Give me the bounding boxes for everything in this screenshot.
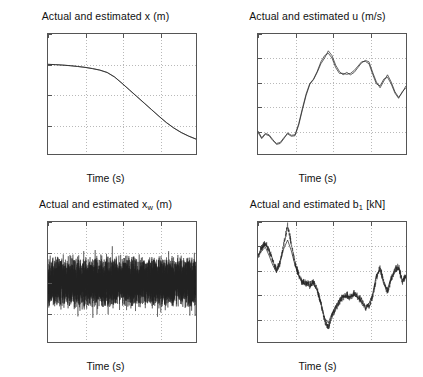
subplot-xw-noise	[48, 222, 196, 342]
xtickmark-3	[161, 34, 162, 38]
xtickmark-0	[48, 34, 49, 38]
ytickmark-4	[258, 132, 262, 133]
ytickmark-2	[258, 83, 262, 84]
ytickmark-2	[48, 283, 52, 284]
xtickmark-1	[86, 34, 87, 38]
subplot-b1-curves	[258, 222, 406, 342]
subplot-xw-xlabel: Time (s)	[0, 360, 211, 372]
ytickmark-3	[258, 107, 262, 108]
xtickmark-3	[371, 222, 372, 226]
subplot-u: Actual and estimated u (m/s) 2 1.5	[212, 0, 423, 188]
ytickmark-1	[48, 253, 52, 254]
subplot-u-title-main: Actual and estimated u	[249, 10, 358, 22]
ytickmark-1	[258, 58, 262, 59]
subplot-xw-title-main: Actual and estimated x	[39, 198, 147, 210]
xtickmark-3	[161, 222, 162, 226]
ytickmark-1	[258, 246, 262, 247]
subplot-x-title-unit: (m)	[153, 10, 169, 22]
ytickmark-2	[48, 95, 52, 96]
subplot-b1-axes: 20 0 -20 -40 -60 -80 0 1000 2000 3000 40…	[257, 221, 407, 343]
xtickmark-3	[371, 34, 372, 38]
subplot-b1-title-main: Actual and estimated b	[250, 198, 359, 210]
ytickmark-4	[258, 320, 262, 321]
subplot-x-title: Actual and estimated x (m)	[0, 10, 211, 22]
subplot-x-title-main: Actual and estimated x	[42, 10, 150, 22]
subplot-b1-xlabel: Time (s)	[212, 360, 423, 372]
subplot-u-axes: 2 1.5 1 0.5 0 -0.5 0 1000 2000 3000 4000	[257, 33, 407, 155]
subplot-b1: Actual and estimated b1 [kN] 20 0 -20	[212, 188, 423, 376]
figure-four-subplots: Actual and estimated x (m) 1000 0 -1000	[0, 0, 423, 377]
subplot-xw: Actual and estimated xw (m) 2 1 0 -1 -2	[0, 188, 211, 376]
xtickmark-0	[258, 222, 259, 226]
ytickmark-1	[48, 65, 52, 66]
ytickmark-3	[48, 314, 52, 315]
subplot-x-curves	[48, 34, 196, 154]
xtickmark-2	[123, 222, 124, 226]
subplot-xw-title: Actual and estimated xw (m)	[0, 198, 211, 214]
xtickmark-1	[296, 222, 297, 226]
subplot-xw-title-sub: w	[147, 203, 153, 212]
xtickmark-2	[123, 34, 124, 38]
subplot-u-title: Actual and estimated u (m/s)	[212, 10, 423, 22]
subplot-u-title-unit: (m/s)	[361, 10, 385, 22]
xtickmark-1	[86, 222, 87, 226]
ytickmark-3	[258, 295, 262, 296]
ytickmark-3	[48, 126, 52, 127]
subplot-b1-title-unit: [kN]	[366, 198, 385, 210]
subplot-xw-axes: 2 1 0 -1 -2 0 1000 2000 3000 4000	[47, 221, 197, 343]
subplot-u-xlabel: Time (s)	[212, 172, 423, 184]
xtickmark-0	[48, 222, 49, 226]
subplot-x-xlabel: Time (s)	[0, 172, 211, 184]
subplot-x-axes: 1000 0 -1000 -2000 -3000 0 1000 2000 300…	[47, 33, 197, 155]
xtickmark-1	[296, 34, 297, 38]
subplot-b1-title: Actual and estimated b1 [kN]	[212, 198, 423, 214]
xtickmark-2	[333, 222, 334, 226]
xtickmark-2	[333, 34, 334, 38]
subplot-b1-title-sub: 1	[359, 203, 363, 212]
xtickmark-0	[258, 34, 259, 38]
subplot-u-curves	[258, 34, 406, 154]
subplot-x: Actual and estimated x (m) 1000 0 -1000	[0, 0, 211, 188]
subplot-xw-title-unit: (m)	[156, 198, 172, 210]
ytickmark-2	[258, 271, 262, 272]
